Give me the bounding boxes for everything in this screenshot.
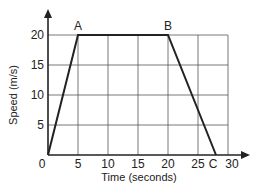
y-axis-arrow-icon	[44, 9, 52, 18]
y-tick-label: 20	[31, 28, 45, 42]
x-tick-label: 5	[75, 157, 82, 171]
x-tick-label: 30	[225, 157, 239, 171]
y-tick-label: 5	[37, 118, 44, 132]
speed-time-chart: 5101520253005101520 ABC Time (seconds) S…	[0, 0, 273, 189]
y-axis-label: Speed (m/s)	[7, 65, 19, 125]
y-tick-label: 10	[31, 88, 45, 102]
x-axis-arrow-icon	[241, 151, 250, 159]
x-tick-label: 20	[161, 157, 175, 171]
x-tick-label: 25	[191, 157, 205, 171]
y-tick-label: 15	[31, 58, 45, 72]
x-axis-label: Time (seconds)	[101, 171, 176, 183]
point-label-a: A	[74, 19, 82, 33]
x-tick-label: 10	[101, 157, 115, 171]
point-label-c: C	[209, 157, 218, 171]
grid	[48, 35, 228, 155]
x-tick-label: 15	[131, 157, 145, 171]
point-label-b: B	[164, 19, 172, 33]
origin-label: 0	[39, 157, 46, 171]
